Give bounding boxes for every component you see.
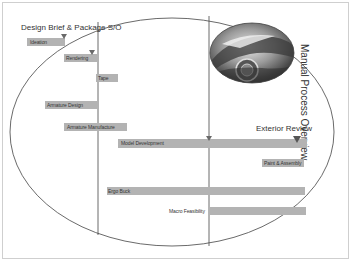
milestone-marker-icon	[206, 136, 212, 141]
milestone-marker-icon	[89, 50, 95, 55]
task-label-rendering: Rendering	[66, 54, 88, 62]
task-label-paint-assembly: Paint & Assembly	[264, 159, 301, 167]
task-bar-ergo-buck	[107, 187, 305, 195]
task-bar-macro-feasibility	[209, 207, 306, 215]
task-label-armature-manufacture: Armature Manufacture	[67, 123, 115, 131]
task-label-model-development: Model Development	[121, 139, 164, 147]
exterior-review-marker-icon	[293, 136, 301, 143]
exterior-review-label: Exterior Review	[256, 124, 312, 133]
task-label-armature-design: Armature Design	[47, 101, 83, 109]
design-brief-title: Design Brief & Package S/O	[21, 23, 122, 32]
car-image	[208, 22, 298, 84]
milestone-marker-icon	[61, 34, 67, 39]
task-label-macro-feasibility: Macro Feasibility	[169, 207, 205, 215]
task-label-ergo-buck: Ergo Buck	[108, 187, 130, 195]
task-label-tape: Tape	[98, 74, 108, 82]
task-label-ideation: Ideation	[30, 38, 47, 46]
